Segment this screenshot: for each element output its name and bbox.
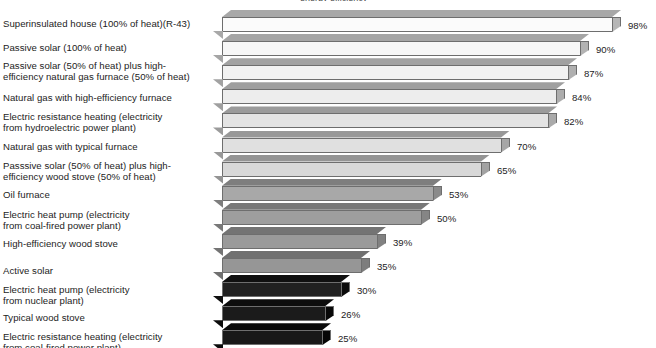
bar-value-label: 98% bbox=[628, 20, 647, 31]
bar-side-face bbox=[501, 138, 510, 153]
bar-front-face bbox=[222, 306, 325, 321]
bar-notch bbox=[213, 55, 223, 63]
bar-top-face bbox=[222, 179, 442, 186]
bar-value-label: 30% bbox=[357, 285, 376, 296]
bar-value-label: 70% bbox=[517, 141, 536, 152]
bar-front-face bbox=[222, 258, 361, 273]
bar-front-face bbox=[222, 234, 377, 249]
bar-value-label: 90% bbox=[596, 44, 615, 55]
bar-top-face bbox=[222, 10, 621, 17]
bar-top-face bbox=[222, 299, 334, 306]
bar-front-face bbox=[222, 282, 341, 297]
bar-side-face bbox=[481, 162, 490, 177]
bar-notch bbox=[213, 200, 223, 208]
bar-notch bbox=[213, 344, 223, 348]
bar-front-face bbox=[222, 89, 556, 104]
bar-front-face bbox=[222, 138, 501, 153]
bar-value-label: 87% bbox=[584, 68, 603, 79]
bar-top-face bbox=[222, 203, 430, 210]
bar-value-label: 65% bbox=[497, 165, 516, 176]
bar-top-face bbox=[222, 323, 331, 330]
plot-area: 98%90%87%84%82%70%65%53%50%39%35%30%26%2… bbox=[0, 0, 656, 348]
bar-front-face bbox=[222, 113, 548, 128]
bar-notch bbox=[213, 103, 223, 111]
bar-notch bbox=[213, 176, 223, 184]
bar-notch bbox=[213, 296, 223, 304]
bar-side-face bbox=[322, 330, 331, 345]
bar-side-face bbox=[361, 258, 370, 273]
bar-side-face bbox=[612, 17, 621, 32]
bar-front-face bbox=[222, 162, 481, 177]
bar-top-face bbox=[222, 82, 565, 89]
bar-front-face bbox=[222, 186, 433, 201]
bar-value-label: 39% bbox=[393, 237, 412, 248]
bar-notch bbox=[213, 320, 223, 328]
bar-top-face bbox=[222, 131, 510, 138]
bar-notch bbox=[213, 127, 223, 135]
bar-front-face bbox=[222, 210, 421, 225]
bar-value-label: 25% bbox=[338, 333, 357, 344]
bar-side-face bbox=[341, 282, 350, 297]
bar-side-face bbox=[556, 89, 565, 104]
bar-side-face bbox=[580, 41, 589, 56]
bar-front-face bbox=[222, 330, 322, 345]
bar-notch bbox=[213, 31, 223, 39]
bar-top-face bbox=[222, 251, 370, 258]
bar-top-face bbox=[222, 34, 589, 41]
bar-value-label: 82% bbox=[564, 116, 583, 127]
bar-front-face bbox=[222, 17, 612, 32]
bar-notch bbox=[213, 248, 223, 256]
bar-value-label: 53% bbox=[449, 189, 468, 200]
bar-side-face bbox=[433, 186, 442, 201]
bar-value-label: 84% bbox=[572, 92, 591, 103]
bar-side-face bbox=[421, 210, 430, 225]
bar-value-label: 35% bbox=[377, 261, 396, 272]
bar-top-face bbox=[222, 275, 350, 282]
bar-front-face bbox=[222, 65, 568, 80]
bar-top-face bbox=[222, 58, 577, 65]
bar-top-face bbox=[222, 155, 490, 162]
energy-efficiency-bar-chart: energy efficiency Superinsulated house (… bbox=[0, 0, 656, 348]
bar-notch bbox=[213, 224, 223, 232]
bar-notch bbox=[213, 272, 223, 280]
bar-front-face bbox=[222, 41, 580, 56]
bar-top-face bbox=[222, 227, 386, 234]
bar-side-face bbox=[377, 234, 386, 249]
bar-side-face bbox=[568, 65, 577, 80]
bar-side-face bbox=[548, 113, 557, 128]
bar-value-label: 26% bbox=[341, 309, 360, 320]
bar-notch bbox=[213, 152, 223, 160]
bar-top-face bbox=[222, 106, 557, 113]
bar-notch bbox=[213, 79, 223, 87]
bar-value-label: 50% bbox=[437, 213, 456, 224]
bar-side-face bbox=[325, 306, 334, 321]
